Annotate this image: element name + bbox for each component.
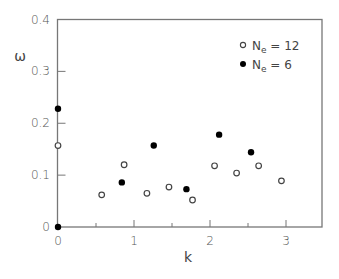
filled-circle-marker: [55, 106, 61, 112]
open-circle-marker: [212, 163, 218, 169]
open-circle-marker: [190, 197, 196, 203]
y-tick-label: 0.2: [31, 116, 50, 130]
open-circle-marker: [99, 192, 105, 198]
x-axis-label: k: [184, 249, 193, 265]
legend-label: Ne = 6: [252, 58, 292, 74]
legend-filled-circle-icon: [240, 61, 246, 67]
open-circle-marker: [256, 163, 262, 169]
y-tick-label: 0.4: [31, 13, 50, 27]
open-circle-marker: [166, 184, 172, 190]
scatter-chart: 012300.10.20.30.4 k ω Ne = 12Ne = 6: [0, 0, 339, 279]
open-circle-marker: [144, 190, 150, 196]
open-circle-marker: [234, 170, 240, 176]
x-tick-label: 2: [206, 234, 214, 248]
x-tick-label: 3: [282, 234, 290, 248]
legend-open-circle-icon: [240, 42, 245, 47]
axis-ticks: 012300.10.20.30.4: [31, 13, 290, 249]
filled-circle-marker: [151, 142, 157, 148]
y-axis-label: ω: [14, 48, 26, 64]
open-circle-marker: [121, 162, 127, 168]
open-circle-marker: [55, 143, 61, 149]
x-tick-label: 0: [54, 234, 62, 248]
filled-circle-marker: [55, 224, 61, 230]
filled-circle-marker: [248, 149, 254, 155]
filled-circle-marker: [119, 179, 125, 185]
x-tick-label: 1: [130, 234, 138, 248]
legend: Ne = 12Ne = 6: [240, 39, 299, 74]
y-tick-label: 0.3: [31, 64, 50, 78]
data-points: [55, 106, 284, 231]
open-circle-marker: [279, 178, 285, 184]
y-tick-label: 0: [42, 220, 50, 234]
legend-label: Ne = 12: [252, 39, 299, 55]
y-tick-label: 0.1: [31, 168, 50, 182]
filled-circle-marker: [216, 131, 222, 137]
filled-circle-marker: [183, 186, 189, 192]
